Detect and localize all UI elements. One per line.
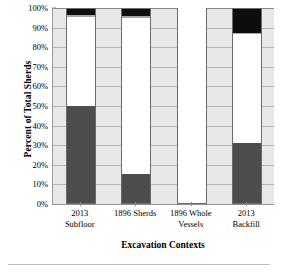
bar-segment[interactable] (66, 15, 96, 17)
x-tick-label-line: 1896 Whole (159, 208, 223, 219)
bar-slot (109, 8, 165, 204)
x-axis-tick-labels: 2013Subfloor1896 Sherds1896 WholeVessels… (52, 206, 274, 242)
y-tick-label: 50% (32, 101, 48, 111)
bar-segment[interactable] (232, 33, 262, 35)
x-axis-title: Excavation Contexts (52, 240, 274, 250)
bar-slot (220, 8, 276, 204)
x-tick-label: 2013Backfill (215, 208, 279, 230)
bar-segment[interactable] (66, 8, 96, 15)
y-tick-label: 30% (32, 140, 48, 150)
bar-segment[interactable] (121, 8, 151, 16)
bar-segment[interactable] (121, 16, 151, 18)
footer-rule (8, 264, 270, 265)
x-tick-mark (191, 202, 192, 206)
x-axis-line (52, 204, 274, 205)
stacked-bar[interactable] (66, 8, 96, 204)
x-tick-label-line: 2013 (48, 208, 112, 219)
x-tick-label-line: Subfloor (48, 219, 112, 230)
plot-area (52, 8, 274, 204)
x-tick-label: 1896 Sherds (104, 208, 168, 219)
y-tick-label: 90% (32, 23, 48, 33)
y-tick-label: 0% (37, 199, 48, 209)
y-tick-label: 80% (32, 42, 48, 52)
bar-segment[interactable] (232, 143, 262, 204)
bar-segment[interactable] (177, 8, 207, 203)
y-tick-label: 40% (32, 121, 48, 131)
y-axis-tick-labels: 0%10%20%30%40%50%60%70%80%90%100% (16, 8, 52, 204)
x-tick-mark (80, 202, 81, 206)
chart-figure: Percent of Total Sherds 0%10%20%30%40%50… (0, 0, 285, 274)
bar-segment[interactable] (121, 18, 151, 174)
y-tick-label: 20% (32, 160, 48, 170)
x-tick-label-line: Backfill (215, 219, 279, 230)
x-tick-label-line: 1896 Sherds (104, 208, 168, 219)
y-tick-label: 70% (32, 62, 48, 72)
bar-segment[interactable] (232, 34, 262, 143)
stacked-bar[interactable] (121, 8, 151, 204)
y-tick-label: 60% (32, 81, 48, 91)
x-tick-label-line: Vessels (159, 219, 223, 230)
x-tick-mark (135, 202, 136, 206)
bar-segment[interactable] (232, 8, 262, 33)
bar-segment[interactable] (66, 17, 96, 106)
x-tick-label: 2013Subfloor (48, 208, 112, 230)
bar-segment[interactable] (66, 106, 96, 204)
stacked-bar[interactable] (177, 8, 207, 204)
y-tick-label: 10% (32, 179, 48, 189)
bar-slot (164, 8, 220, 204)
stacked-bar[interactable] (232, 8, 262, 204)
x-tick-label: 1896 WholeVessels (159, 208, 223, 230)
bar-slot (53, 8, 109, 204)
x-tick-mark (246, 202, 247, 206)
bar-series-group (53, 8, 274, 204)
x-tick-label-line: 2013 (215, 208, 279, 219)
y-tick-label: 100% (28, 3, 48, 13)
bar-segment[interactable] (121, 174, 151, 204)
